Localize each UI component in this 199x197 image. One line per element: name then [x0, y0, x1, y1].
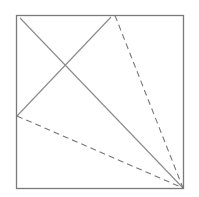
main-diagonal: [20, 18, 183, 188]
geometric-diagram: [0, 0, 199, 197]
dashed-left-to-corner: [17, 116, 183, 188]
cross-segment: [17, 17, 111, 116]
solid-lines: [17, 17, 183, 188]
dashed-top-to-corner: [115, 16, 183, 189]
